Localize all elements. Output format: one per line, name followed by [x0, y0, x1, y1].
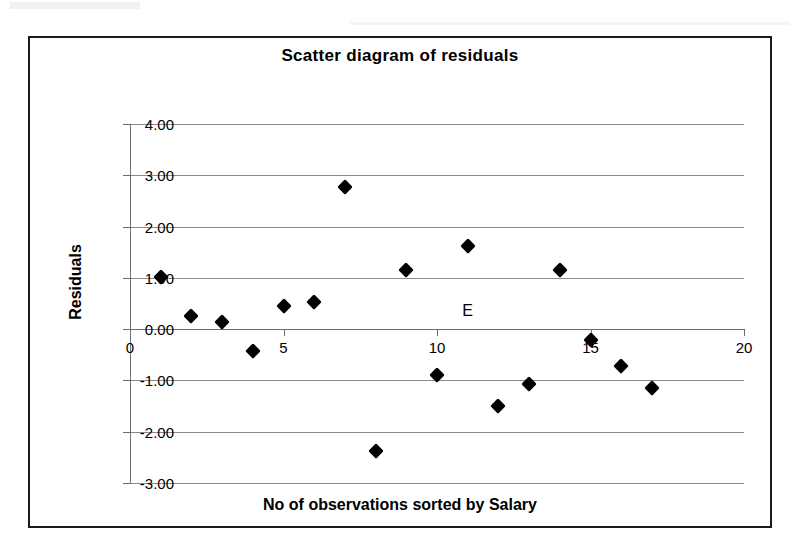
x-tick-label-5: 5 — [279, 339, 287, 356]
x-tick-20 — [744, 329, 745, 336]
data-point — [306, 294, 322, 310]
data-point — [644, 380, 660, 396]
x-tick-10 — [437, 329, 438, 336]
data-point — [276, 298, 292, 314]
y-axis-tick-labels: 4.003.002.001.000.00-1.00-2.00-3.00 — [114, 124, 174, 483]
x-tick-5 — [284, 329, 285, 336]
data-point — [245, 343, 261, 359]
data-point — [184, 309, 200, 325]
y-tick-label--3.00: -3.00 — [140, 475, 174, 492]
y-tick--3.00 — [123, 483, 130, 484]
data-point — [491, 398, 507, 414]
chart-frame: Scatter diagram of residuals Residuals N… — [28, 36, 772, 528]
x-tick-label-20: 20 — [736, 339, 753, 356]
x-axis-title: No of observations sorted by Salary — [30, 496, 770, 514]
y-tick-label--2.00: -2.00 — [140, 423, 174, 440]
plot-area: 4.003.002.001.000.00-1.00-2.00-3.00 0510… — [130, 124, 744, 483]
data-point — [460, 238, 476, 254]
y-tick-label-4.00: 4.00 — [145, 116, 174, 133]
data-point — [368, 443, 384, 459]
chart-title: Scatter diagram of residuals — [30, 46, 770, 66]
data-point — [552, 262, 568, 278]
y-tick-label-0.00: 0.00 — [145, 321, 174, 338]
gridline-y-4.00 — [130, 124, 744, 125]
gridline-y--2.00 — [130, 432, 744, 433]
gridline-y-1.00 — [130, 278, 744, 279]
data-point — [521, 376, 537, 392]
y-tick-label--1.00: -1.00 — [140, 372, 174, 389]
data-point — [214, 315, 230, 331]
scan-artifact-top-right — [350, 22, 790, 25]
series-annotation-label: E — [462, 302, 473, 320]
data-point — [337, 179, 353, 195]
gridline-y-3.00 — [130, 175, 744, 176]
data-point — [613, 358, 629, 374]
value-axis-line — [130, 124, 131, 483]
x-tick-label-0: 0 — [126, 339, 134, 356]
y-tick-label-2.00: 2.00 — [145, 218, 174, 235]
y-tick-label-3.00: 3.00 — [145, 167, 174, 184]
x-tick-label-10: 10 — [429, 339, 446, 356]
data-point — [399, 262, 415, 278]
scan-artifact-top-left — [10, 2, 140, 9]
gridline-y-2.00 — [130, 227, 744, 228]
gridline-y--3.00 — [130, 483, 744, 484]
y-axis-title: Residuals — [67, 244, 85, 320]
